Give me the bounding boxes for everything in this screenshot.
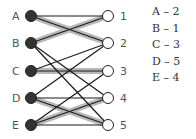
right-node-3	[103, 66, 114, 77]
left-node-d	[26, 93, 37, 104]
left-node-label: E	[12, 119, 19, 132]
right-node-label: 1	[120, 10, 127, 23]
matching-item: E – 4	[152, 70, 180, 87]
left-node-label: A	[12, 10, 20, 23]
right-node-5	[103, 120, 114, 131]
left-node-a	[26, 11, 37, 22]
left-node-e	[26, 120, 37, 131]
matching-list: A – 2 B – 1 C – 3 D – 5 E – 4	[152, 4, 180, 87]
left-node-label: D	[12, 92, 20, 105]
left-node-label: B	[12, 37, 20, 50]
right-node-label: 3	[120, 65, 127, 78]
matching-item: B – 1	[152, 21, 180, 38]
right-node-4	[103, 93, 114, 104]
bipartite-graph: ABCDE12345	[0, 0, 140, 139]
matching-item: D – 5	[152, 54, 180, 71]
left-node-b	[26, 38, 37, 49]
matching-item: A – 2	[152, 4, 180, 21]
right-node-label: 4	[120, 92, 127, 105]
matching-item: C – 3	[152, 37, 180, 54]
right-node-label: 5	[120, 119, 127, 132]
left-node-label: C	[12, 65, 20, 78]
edge	[31, 43, 108, 71]
left-node-c	[26, 66, 37, 77]
right-node-1	[103, 11, 114, 22]
right-node-label: 2	[120, 37, 127, 50]
right-node-2	[103, 38, 114, 49]
